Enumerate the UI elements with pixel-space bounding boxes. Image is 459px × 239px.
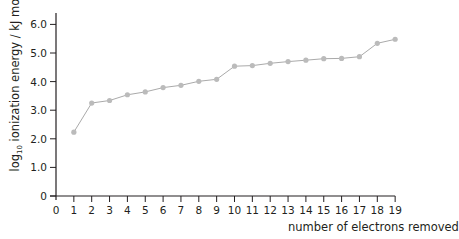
x-tick-label: 2 <box>88 204 95 216</box>
x-axis-label: number of electrons removed <box>288 220 459 234</box>
x-tick-label: 7 <box>178 204 185 216</box>
data-point <box>339 56 344 61</box>
y-tick-label: 5.0 <box>30 47 47 59</box>
y-tick-label: 2.0 <box>30 133 47 145</box>
x-tick-label: 1 <box>71 204 78 216</box>
y-axis-label: log10 ionization energy / kJ mol-1 <box>8 0 24 171</box>
x-tick-label: 4 <box>124 204 131 216</box>
x-tick-label: 0 <box>53 204 60 216</box>
x-tick-label: 11 <box>246 204 259 216</box>
x-tick-label: 16 <box>335 204 349 216</box>
data-point <box>214 77 219 82</box>
x-tick-label: 18 <box>371 204 384 216</box>
x-tick-label: 15 <box>317 204 330 216</box>
y-tick-label: 0 <box>40 190 47 202</box>
data-point <box>178 83 183 88</box>
data-point <box>89 100 94 105</box>
data-line <box>74 39 395 132</box>
x-tick-label: 17 <box>353 204 366 216</box>
data-point <box>161 85 166 90</box>
data-point <box>71 130 76 135</box>
data-point <box>321 56 326 61</box>
x-tick-label: 10 <box>228 204 241 216</box>
x-tick-label: 8 <box>195 204 202 216</box>
axes <box>50 13 395 200</box>
x-tick-label: 6 <box>160 204 167 216</box>
data-markers <box>71 37 398 135</box>
y-tick-label: 6.0 <box>30 18 47 30</box>
data-point <box>357 54 362 59</box>
y-tick-label: 3.0 <box>30 104 47 116</box>
data-point <box>285 59 290 64</box>
x-tick-label: 9 <box>213 204 220 216</box>
x-tick-label: 5 <box>142 204 149 216</box>
x-tick-label: 3 <box>106 204 113 216</box>
data-point <box>107 98 112 103</box>
y-tick-label: 4.0 <box>30 76 47 88</box>
axis-ticks: 01.02.03.04.05.06.0012345678910111213141… <box>30 18 402 216</box>
data-point <box>303 58 308 63</box>
data-point <box>143 89 148 94</box>
data-point <box>232 64 237 69</box>
x-tick-label: 14 <box>299 204 313 216</box>
data-point <box>250 63 255 68</box>
x-tick-label: 12 <box>264 204 277 216</box>
data-point <box>375 41 380 46</box>
x-tick-label: 13 <box>281 204 294 216</box>
data-point <box>268 61 273 66</box>
data-point <box>125 92 130 97</box>
data-point <box>393 37 398 42</box>
x-tick-label: 19 <box>388 204 401 216</box>
y-tick-label: 1.0 <box>30 161 47 173</box>
data-point <box>196 79 201 84</box>
